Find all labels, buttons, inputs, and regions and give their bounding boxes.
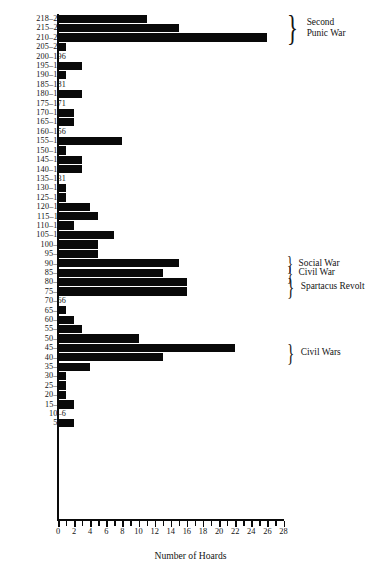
bar	[58, 193, 66, 201]
annotation-line: Civil Wars	[301, 347, 341, 358]
category-label: 130–126	[2, 183, 66, 192]
x-tick-label: 20	[215, 527, 223, 537]
bar-track	[58, 23, 283, 32]
category-label: 55–51	[2, 324, 66, 333]
bar-row: 130–126	[0, 183, 381, 192]
bar	[58, 287, 187, 295]
bar-track	[58, 418, 283, 427]
category-label: 110–106	[2, 221, 66, 230]
annotation-second-punic-war: }SecondPunic War	[287, 11, 346, 45]
category-label: 165–161	[2, 117, 66, 126]
bar-track	[58, 221, 283, 230]
annotation-text: Civil Wars	[301, 347, 341, 358]
annotation-civil-wars: }Civil Wars	[287, 341, 341, 366]
bar	[58, 325, 82, 333]
category-label: 205–201	[2, 42, 66, 51]
x-tick-label: 16	[183, 527, 191, 537]
bar	[58, 221, 74, 229]
bar	[58, 203, 90, 211]
annotation-line: Punic War	[307, 28, 346, 39]
bar-track	[58, 70, 283, 79]
bar-track	[58, 259, 283, 268]
bar	[58, 184, 66, 192]
bar-track	[58, 52, 283, 61]
category-label: 65–61	[2, 306, 66, 315]
bar	[58, 400, 74, 408]
bar-track	[58, 296, 283, 305]
bar-row: 30–26	[0, 371, 381, 380]
bar-row: 140–136	[0, 165, 381, 174]
bar-row: 55–51	[0, 324, 381, 333]
bar	[58, 212, 98, 220]
category-label: 5–3	[2, 418, 66, 427]
annotation-line: Second	[307, 17, 346, 28]
x-tick-label: 8	[120, 527, 124, 537]
bar	[58, 24, 179, 32]
bar	[58, 306, 66, 314]
bar	[58, 316, 74, 324]
bar-track	[58, 99, 283, 108]
annotation-text: SecondPunic War	[307, 17, 346, 40]
x-tick	[195, 521, 196, 526]
bar-row: 145–141	[0, 155, 381, 164]
bar-track	[58, 249, 283, 258]
bar	[58, 344, 235, 352]
x-tick-label: 0	[56, 527, 60, 537]
x-tick-label: 22	[231, 527, 239, 537]
category-label: 140–136	[2, 165, 66, 174]
bar	[58, 250, 98, 258]
bar-track	[58, 390, 283, 399]
bar-row: 20–16	[0, 390, 381, 399]
bar-row: 5–3	[0, 418, 381, 427]
bar	[58, 33, 267, 41]
bar	[58, 372, 66, 380]
category-label: 35–31	[2, 362, 66, 371]
category-label: 30–26	[2, 371, 66, 380]
x-tick	[66, 521, 67, 526]
bar-row: 155–151	[0, 136, 381, 145]
x-tick	[179, 521, 180, 526]
category-label: 125–121	[2, 193, 66, 202]
bar	[58, 165, 82, 173]
bar	[58, 278, 187, 286]
x-tick-label: 24	[247, 527, 255, 537]
bar-row: 15–11	[0, 400, 381, 409]
category-label: 145–141	[2, 155, 66, 164]
bar-track	[58, 117, 283, 126]
bar-row: 185–181	[0, 80, 381, 89]
brace-icon: }	[287, 13, 298, 43]
bar-track	[58, 306, 283, 315]
category-label: 80–76	[2, 277, 66, 286]
bar-track	[58, 108, 283, 117]
category-label: 190–186	[2, 70, 66, 79]
bar	[58, 363, 90, 371]
bar-track	[58, 89, 283, 98]
category-label: 115–111	[2, 212, 66, 221]
bar-track	[58, 212, 283, 221]
bar-row: 165–161	[0, 117, 381, 126]
annotation-text: Spartacus Revolt	[301, 281, 365, 292]
category-label: 215–211	[2, 23, 66, 32]
bar-row: 105–101	[0, 230, 381, 239]
category-label: 75–71	[2, 287, 66, 296]
bar	[58, 381, 66, 389]
bar-track	[58, 155, 283, 164]
category-label: 155–151	[2, 136, 66, 145]
bar	[58, 334, 139, 342]
category-label: 185–181	[2, 80, 66, 89]
bar-track	[58, 33, 283, 42]
x-tick-label: 28	[279, 527, 287, 537]
bar	[58, 391, 66, 399]
bar	[58, 146, 66, 154]
bar-track	[58, 193, 283, 202]
bar-row: 170–166	[0, 108, 381, 117]
bar-track	[58, 165, 283, 174]
bar-row: 100–96	[0, 240, 381, 249]
bar-track	[58, 174, 283, 183]
bar-track	[58, 343, 283, 352]
plot-area: 218–216215–211210–206205–201200–196195–1…	[0, 0, 381, 577]
category-label: 90–86	[2, 259, 66, 268]
x-tick	[243, 521, 244, 526]
x-tick	[227, 521, 228, 526]
bar-track	[58, 61, 283, 70]
